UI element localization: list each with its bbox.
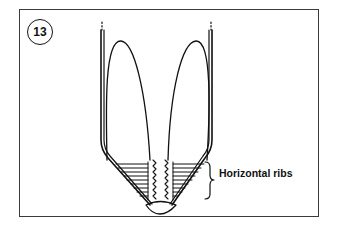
inner-lobe-right: [168, 41, 209, 160]
inner-lobe-left: [106, 41, 150, 160]
outer-wall-right: [170, 22, 212, 205]
outer-wall-left: [101, 22, 152, 205]
callout-brace: [205, 162, 214, 199]
apex: [146, 202, 176, 215]
callout-label: Horizontal ribs: [219, 167, 293, 179]
canal-wall-right: [165, 160, 168, 199]
root-canal-diagram: [0, 0, 338, 230]
canal-wall-left: [153, 160, 156, 199]
